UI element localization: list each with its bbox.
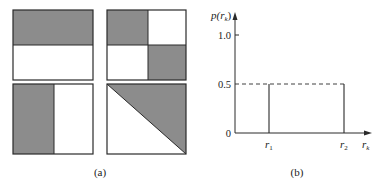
y-tick-label-0: 0 — [226, 128, 231, 139]
pattern-diagonal-triangle — [107, 84, 186, 154]
r2-label: r2 — [340, 138, 348, 152]
pattern-left-half-shaded — [13, 84, 93, 154]
x-axis-label: rk — [362, 138, 370, 152]
panel-b: p(rk) 1.0 0.5 0 r1 r2 rk (b) — [210, 9, 372, 179]
x-axis-arrow-icon — [364, 131, 372, 136]
r1-label: r1 — [265, 138, 273, 152]
figure: (a) p(rk) 1.0 0.5 0 r1 r2 rk (b) — [0, 0, 382, 190]
caption-a: (a) — [94, 166, 107, 179]
panel-a: (a) — [13, 10, 186, 179]
y-tick-label-1: 1.0 — [218, 30, 231, 41]
y-tick-label-0-5: 0.5 — [218, 79, 231, 90]
y-axis-arrow-icon — [233, 12, 238, 20]
pattern-top-half-shaded — [13, 10, 93, 80]
y-axis-label: p(rk) — [210, 9, 232, 23]
pattern-checkerboard — [107, 10, 186, 80]
caption-b: (b) — [291, 166, 304, 179]
